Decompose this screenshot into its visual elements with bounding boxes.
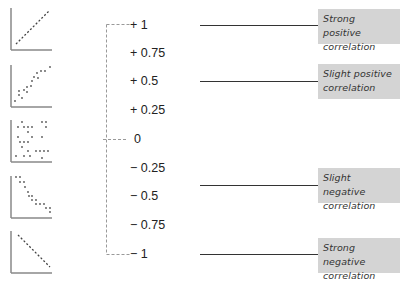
- scale-label-plus-1: + 1: [130, 18, 148, 32]
- label-strong-negative-line2: correlation: [323, 269, 396, 283]
- scale-label-minus-1: − 1: [130, 247, 148, 261]
- connector-strong-negative: [200, 254, 318, 255]
- connector-slight-negative: [200, 185, 318, 186]
- connector-strong-positive: [200, 25, 318, 26]
- scale-label-minus-0-25: − 0.25: [130, 161, 165, 175]
- connector-slight-positive: [200, 81, 318, 82]
- scale-label-plus-0-75: + 0.75: [130, 46, 165, 60]
- scale-label-zero: 0: [134, 132, 141, 146]
- scale-label-minus-0-5: − 0.5: [130, 189, 158, 203]
- label-slight-negative-line2: correlation: [323, 199, 396, 213]
- label-strong-positive-line1: Strong positive: [323, 12, 396, 40]
- label-strong-positive: Strong positive correlation: [318, 9, 400, 44]
- label-slight-positive-line1: Slight positive: [323, 67, 396, 81]
- scale-label-plus-0-25: + 0.25: [130, 103, 165, 117]
- label-strong-positive-line2: correlation: [323, 40, 396, 54]
- label-slight-negative-line1: Slight negative: [323, 171, 396, 199]
- label-slight-negative: Slight negative correlation: [318, 168, 400, 203]
- scale-label-plus-0-5: + 0.5: [130, 74, 158, 88]
- label-slight-positive-line2: correlation: [323, 81, 396, 95]
- scale-label-minus-0-75: − 0.75: [130, 218, 165, 232]
- label-slight-positive: Slight positive correlation: [318, 64, 400, 99]
- label-strong-negative-line1: Strong negative: [323, 241, 396, 269]
- label-strong-negative: Strong negative correlation: [318, 238, 400, 273]
